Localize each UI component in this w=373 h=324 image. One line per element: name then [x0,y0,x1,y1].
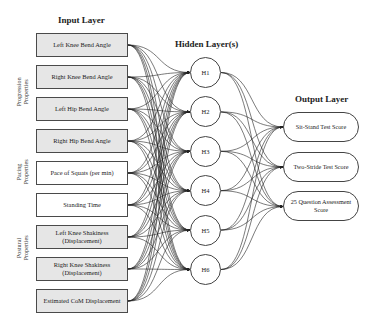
output-node: Two-Stride Test Score [283,152,359,182]
input-node: Pace of Squats (per min) [36,161,128,185]
group-label-line: Properties [22,235,29,260]
group-label-progression: ProgressionProperties [10,62,34,122]
output-node: Sit-Stand Test Score [283,112,359,142]
hidden-node: H2 [190,96,221,127]
input-node: Left Knee Shakiness (Displacement) [36,225,128,249]
input-node: Left Knee Bend Angle [36,33,128,57]
output-layer-title: Output Layer [295,94,348,104]
group-label-postural: PosturalProperties [10,218,34,278]
hidden-node: H1 [190,57,221,88]
hidden-node: H5 [190,215,221,246]
hidden-node: H4 [190,175,221,206]
hidden-node: H6 [190,254,221,285]
hidden-node: H3 [190,136,221,167]
group-label-pacing: PacingProperties [10,142,34,202]
input-node: Standing Time [36,193,128,217]
neural-network-diagram: Input Layer Hidden Layer(s) Output Layer… [0,0,373,324]
input-node: Left Hip Bend Angle [36,97,128,121]
input-node: Right Knee Shakiness (Displacement) [36,257,128,281]
input-node: Right Knee Bend Angle [36,65,128,89]
group-label-line: Postural [15,238,22,258]
output-node: 25 Question Assessment Score [283,191,359,221]
group-label-line: Progression [15,77,22,106]
input-layer-title: Input Layer [58,15,105,25]
group-label-line: Properties [22,159,29,184]
group-label-line: Properties [22,79,29,104]
input-node: Right Hip Bend Angle [36,129,128,153]
hidden-layer-title: Hidden Layer(s) [175,39,238,49]
group-label-line: Pacing [15,164,22,181]
input-node: Estimated CoM Displacement [36,289,128,313]
